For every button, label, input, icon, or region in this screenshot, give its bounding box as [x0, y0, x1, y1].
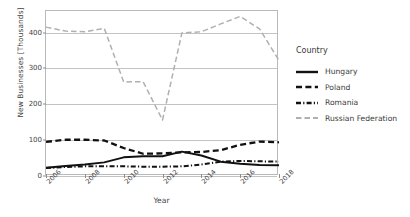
series-line-russian-federation	[46, 16, 279, 120]
y-tick-label: 400	[29, 29, 42, 37]
chart-figure: New Businesses [Thousands] 0100200300400…	[0, 0, 410, 217]
x-tick-label: 2018	[278, 168, 296, 186]
legend-item-hungary[interactable]: Hungary	[296, 64, 408, 80]
legend-items: HungaryPolandRomaniaRussian Federation	[296, 64, 408, 126]
legend-item-romania[interactable]: Romania	[296, 95, 408, 111]
legend-item-label: Hungary	[325, 67, 357, 76]
legend-item-label: Russian Federation	[325, 114, 397, 123]
series-line-poland	[46, 140, 279, 154]
y-tick-label: 100	[29, 136, 42, 144]
legend-item-label: Romania	[325, 98, 358, 107]
light-dashed-line-swatch	[296, 113, 318, 123]
x-axis-title: Year	[45, 196, 278, 205]
series-lines	[46, 11, 279, 176]
plot-area: 0100200300400 20062008201020122014201620…	[45, 10, 278, 175]
series-line-hungary	[46, 152, 279, 168]
legend-item-label: Poland	[325, 83, 350, 92]
dashed-line-swatch	[296, 82, 318, 92]
legend: Country HungaryPolandRomaniaRussian Fede…	[296, 46, 408, 126]
legend-item-russian-federation[interactable]: Russian Federation	[296, 111, 408, 127]
y-tick-label: 0	[38, 172, 42, 180]
legend-item-poland[interactable]: Poland	[296, 80, 408, 96]
y-tick-label: 300	[29, 64, 42, 72]
legend-title: Country	[296, 46, 408, 55]
dashdot-line-swatch	[296, 98, 318, 108]
y-axis-title: New Businesses [Thousands]	[16, 0, 25, 143]
y-tick-label: 200	[29, 100, 42, 108]
solid-line-swatch	[296, 67, 318, 77]
